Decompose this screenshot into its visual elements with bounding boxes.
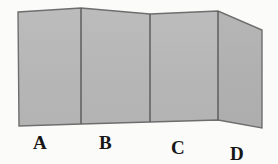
figure-canvas: A B C D bbox=[0, 0, 278, 164]
panel-label-b: B bbox=[99, 133, 112, 152]
screen-panel-d bbox=[218, 11, 262, 128]
screen-panel-c bbox=[150, 11, 218, 122]
panel-label-c: C bbox=[171, 138, 185, 157]
screen-panels-group bbox=[18, 8, 262, 128]
panel-label-a: A bbox=[33, 133, 47, 152]
screen-panel-a bbox=[18, 8, 81, 126]
screen-panel-b bbox=[81, 8, 150, 124]
panel-label-d: D bbox=[230, 144, 244, 163]
